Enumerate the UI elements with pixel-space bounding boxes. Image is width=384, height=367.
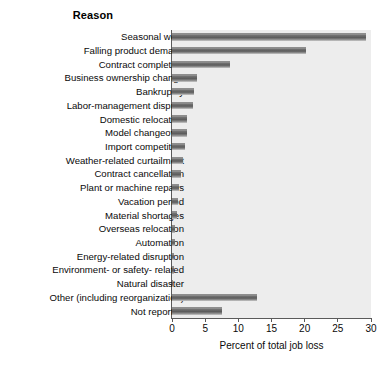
bar-track bbox=[172, 181, 371, 195]
x-tick bbox=[172, 318, 173, 322]
bar-row: Natural disaster bbox=[0, 277, 384, 291]
category-label: Business ownership change bbox=[65, 72, 184, 83]
bar bbox=[172, 307, 222, 315]
x-tick bbox=[304, 318, 305, 322]
bar-row: Domestic relocation bbox=[0, 112, 384, 126]
bar-row: Labor-management dispute bbox=[0, 99, 384, 113]
bar-track bbox=[172, 30, 371, 44]
bar-track bbox=[172, 208, 371, 222]
bar-row: Not reported bbox=[0, 304, 384, 318]
x-tick-label: 0 bbox=[157, 323, 187, 335]
category-label: Energy-related disruption bbox=[77, 251, 184, 262]
bar-row: Automation bbox=[0, 236, 384, 250]
x-tick-label: 15 bbox=[257, 323, 287, 335]
bar-row: Business ownership change bbox=[0, 71, 384, 85]
bar-row: Overseas relocation bbox=[0, 222, 384, 236]
bar bbox=[172, 102, 193, 110]
bar-row: Import competition bbox=[0, 140, 384, 154]
bar-track bbox=[172, 57, 371, 71]
x-tick-label: 5 bbox=[190, 323, 220, 335]
x-tick-label: 25 bbox=[323, 323, 353, 335]
bar bbox=[172, 143, 185, 151]
x-tick bbox=[238, 318, 239, 322]
bar-track bbox=[172, 99, 371, 113]
category-label: Falling product demand bbox=[84, 45, 184, 56]
bar bbox=[172, 211, 177, 219]
category-label: Contract cancellation bbox=[94, 168, 184, 179]
bar bbox=[172, 33, 366, 41]
x-tick-label: 10 bbox=[223, 323, 253, 335]
bar bbox=[172, 170, 181, 178]
x-tick-label: 20 bbox=[290, 323, 320, 335]
bar-track bbox=[172, 112, 371, 126]
bar-track bbox=[172, 195, 371, 209]
bar-chart-figure: Reason Seasonal workFalling product dema… bbox=[0, 0, 384, 367]
category-label: Weather-related curtailment bbox=[66, 155, 184, 166]
bar-track bbox=[172, 249, 371, 263]
x-tick bbox=[337, 318, 338, 322]
category-label: Labor-management dispute bbox=[67, 100, 184, 111]
bar-track bbox=[172, 291, 371, 305]
bar-track bbox=[172, 236, 371, 250]
category-label: Environment- or safety- related bbox=[52, 264, 184, 275]
category-label: Plant or machine repairs bbox=[80, 182, 184, 193]
bar-track bbox=[172, 277, 371, 291]
bar bbox=[172, 266, 174, 274]
bar-row: Vacation period bbox=[0, 195, 384, 209]
bar-row: Bankruptcy bbox=[0, 85, 384, 99]
bar-track bbox=[172, 222, 371, 236]
bar-row: Other (including reorganization) bbox=[0, 291, 384, 305]
bar bbox=[172, 225, 175, 233]
bar-track bbox=[172, 153, 371, 167]
bar bbox=[172, 129, 187, 137]
bar-row: Seasonal work bbox=[0, 30, 384, 44]
x-tick bbox=[271, 318, 272, 322]
bar bbox=[172, 239, 175, 247]
bar-track bbox=[172, 304, 371, 318]
bar bbox=[172, 61, 230, 69]
bar-row: Energy-related disruption bbox=[0, 249, 384, 263]
bar-row: Contract cancellation bbox=[0, 167, 384, 181]
bar-row: Contract completion bbox=[0, 57, 384, 71]
x-tick bbox=[371, 318, 372, 322]
category-label: Other (including reorganization) bbox=[50, 292, 184, 303]
bar bbox=[172, 88, 194, 96]
bar-track bbox=[172, 140, 371, 154]
bar-track bbox=[172, 167, 371, 181]
bar-row: Material shortages bbox=[0, 208, 384, 222]
bar bbox=[172, 74, 197, 82]
bar bbox=[172, 198, 178, 206]
x-tick bbox=[205, 318, 206, 322]
bar bbox=[172, 115, 187, 123]
x-axis-label: Percent of total job loss bbox=[172, 340, 371, 352]
bar-track bbox=[172, 126, 371, 140]
page-title: Reason bbox=[0, 9, 186, 21]
bar-row: Model changeover bbox=[0, 126, 384, 140]
bar-track bbox=[172, 44, 371, 58]
bar-row: Falling product demand bbox=[0, 44, 384, 58]
bar-track bbox=[172, 71, 371, 85]
bar-row: Plant or machine repairs bbox=[0, 181, 384, 195]
bar-row: Weather-related curtailment bbox=[0, 153, 384, 167]
bar-row: Environment- or safety- related bbox=[0, 263, 384, 277]
bar-track bbox=[172, 263, 371, 277]
bar bbox=[172, 253, 174, 261]
bar bbox=[172, 157, 183, 165]
bar-track bbox=[172, 85, 371, 99]
x-tick-label: 30 bbox=[356, 323, 384, 335]
bar bbox=[172, 184, 179, 192]
bar bbox=[172, 280, 173, 288]
bar bbox=[172, 294, 257, 302]
bar bbox=[172, 47, 306, 55]
